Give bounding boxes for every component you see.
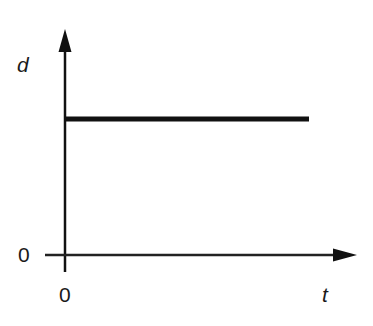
y-axis-arrow-icon	[59, 29, 72, 52]
x-axis-label: t	[322, 284, 328, 305]
chart-canvas	[0, 0, 373, 326]
y-origin-tick-label: 0	[18, 244, 30, 265]
y-axis-label: d	[17, 54, 29, 75]
x-axis-arrow-icon	[333, 249, 357, 262]
x-origin-tick-label: 0	[59, 284, 71, 305]
